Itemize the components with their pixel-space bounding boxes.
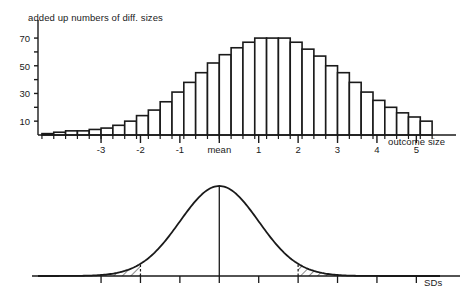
histogram-bar <box>196 73 208 135</box>
histogram-bar <box>420 121 432 135</box>
histogram-bar <box>267 38 279 135</box>
histogram-bar <box>397 113 409 135</box>
histogram-x-tick-label: -3 <box>97 144 105 155</box>
density-shaded-tail <box>298 264 440 276</box>
density-x-axis-label: SDs <box>424 277 442 288</box>
histogram-bar <box>89 129 101 135</box>
histogram-bar <box>278 38 290 135</box>
density-curve <box>38 186 440 276</box>
histogram-bar <box>101 128 113 135</box>
density-shapes <box>38 186 440 276</box>
histogram-x-tick-label: 5 <box>414 144 419 155</box>
histogram-x-tick-label: 2 <box>295 144 300 155</box>
histogram-bar <box>137 116 149 135</box>
histogram-bar <box>290 42 302 135</box>
histogram-bar <box>231 48 243 135</box>
histogram-x-tick-label: -2 <box>136 144 144 155</box>
histogram-bar <box>113 125 125 135</box>
histogram-bar <box>349 82 361 135</box>
histogram-x-tick-label: 1 <box>256 144 261 155</box>
density-axes <box>32 276 460 283</box>
histogram-bar <box>243 42 255 135</box>
histogram-bars <box>42 38 432 135</box>
histogram-x-tick-label: -1 <box>176 144 184 155</box>
histogram-y-tick-label: 70 <box>8 33 30 44</box>
histogram-bar <box>302 49 314 135</box>
histogram-x-tick-label: 4 <box>374 144 379 155</box>
histogram-y-tick-label: 10 <box>8 116 30 127</box>
histogram-bar <box>373 100 385 135</box>
histogram-y-tick-label: 50 <box>8 60 30 71</box>
histogram-bar <box>207 63 219 135</box>
histogram-bar <box>408 117 420 135</box>
histogram-bar <box>172 92 184 135</box>
histogram-bar <box>219 55 231 135</box>
histogram-bar <box>255 38 267 135</box>
histogram-x-tick-label: mean <box>207 144 231 155</box>
histogram-bar <box>361 92 373 135</box>
histogram-bar <box>314 56 326 135</box>
histogram-y-tick-label: 30 <box>8 88 30 99</box>
histogram-title: added up numbers of diff. sizes <box>28 12 163 23</box>
histogram-bar <box>184 82 196 135</box>
density-panel: probability distribution -3-2-1mean12345 <box>0 160 461 304</box>
histogram-bar <box>160 102 172 135</box>
histogram-panel: added up numbers of diff. sizes outcome … <box>0 0 461 160</box>
histogram-x-tick-label: 3 <box>335 144 340 155</box>
histogram-bar <box>148 110 160 135</box>
histogram-bar <box>385 107 397 135</box>
histogram-bar <box>338 73 350 135</box>
histogram-bar <box>125 121 137 135</box>
figure-root: added up numbers of diff. sizes outcome … <box>0 0 461 304</box>
density-plot <box>0 160 461 304</box>
histogram-bar <box>326 66 338 135</box>
